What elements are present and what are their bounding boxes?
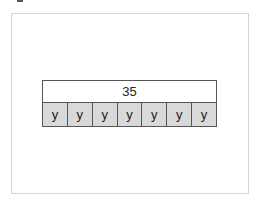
part-label: y: [201, 107, 208, 122]
part-label: y: [151, 107, 158, 122]
part-cell: y: [167, 103, 192, 126]
top-mark: [17, 0, 23, 2]
part-label: y: [126, 107, 133, 122]
part-cell: y: [68, 103, 93, 126]
part-cell: y: [43, 103, 68, 126]
part-label: y: [101, 107, 108, 122]
part-cell: y: [93, 103, 118, 126]
part-cell: y: [192, 103, 216, 126]
part-label: y: [176, 107, 183, 122]
part-cell: y: [118, 103, 143, 126]
part-cell: y: [142, 103, 167, 126]
tape-diagram: 35 y y y y y y y: [42, 80, 217, 127]
total-label: 35: [122, 84, 136, 99]
parts-row: y y y y y y y: [42, 103, 217, 127]
total-bar: 35: [42, 80, 217, 103]
part-label: y: [77, 107, 84, 122]
part-label: y: [52, 107, 59, 122]
